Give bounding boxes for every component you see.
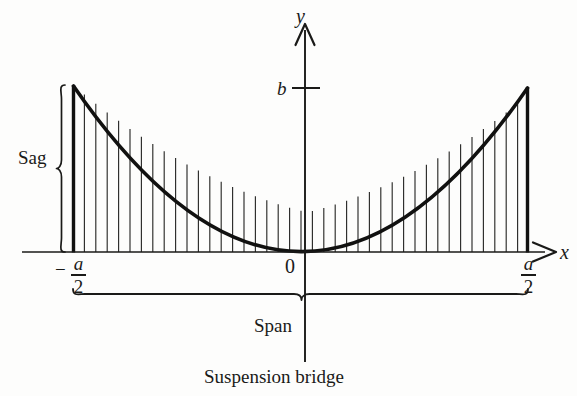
- sag-label: Sag: [18, 148, 47, 167]
- left-endpoint-fraction: a 2: [71, 254, 86, 296]
- left-endpoint-minus-sign: −: [55, 259, 66, 281]
- left-endpoint-numerator: a: [72, 254, 86, 274]
- y-tick-label-b: b: [277, 79, 287, 98]
- sag-brace: [57, 85, 66, 252]
- y-axis-label: y: [296, 6, 305, 26]
- figure-caption: Suspension bridge: [204, 367, 344, 386]
- left-endpoint-denominator: 2: [72, 276, 86, 296]
- figure-canvas: [0, 0, 577, 396]
- hanger-cables-group: [84, 95, 517, 252]
- right-endpoint-numerator: a: [522, 254, 536, 274]
- span-brace: [73, 289, 528, 300]
- right-endpoint-fraction: a 2: [521, 254, 536, 296]
- span-label: Span: [254, 316, 292, 335]
- x-axis-label: x: [560, 242, 569, 262]
- suspension-bridge-figure: y x b 0 Sag Span Suspension bridge − a 2…: [0, 0, 577, 396]
- origin-label: 0: [285, 256, 295, 276]
- right-endpoint-denominator: 2: [522, 276, 536, 296]
